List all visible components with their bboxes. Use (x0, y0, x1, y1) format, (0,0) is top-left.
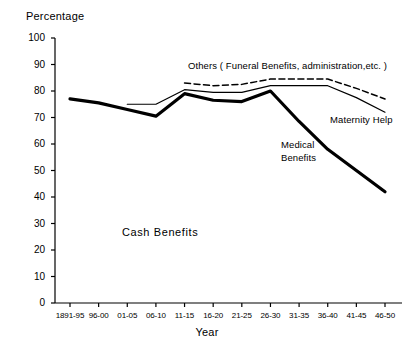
plot-area (0, 0, 414, 351)
series-label-others: Others ( Funeral Benefits, administratio… (188, 60, 387, 71)
series-label-medical-benefits: Medical Benefits (281, 138, 351, 164)
data-series (70, 79, 385, 192)
percentage-by-year-line-chart: Percentage Year 0102030405060708090100 1… (0, 0, 414, 351)
series-label-maternity-help: Maternity Help (330, 114, 393, 125)
series-line (185, 79, 385, 99)
axes (51, 38, 402, 307)
series-label-medical-line2: Benefits (281, 152, 316, 163)
series-label-medical-line1: Medical (281, 139, 314, 150)
series-label-cash-benefits: Cash Benefits (122, 226, 198, 238)
